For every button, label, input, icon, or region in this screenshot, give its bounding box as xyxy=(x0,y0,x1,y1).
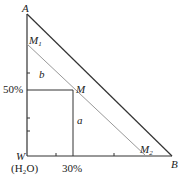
side-AB xyxy=(27,14,172,156)
label-a: a xyxy=(77,114,83,126)
label-M2: M2 xyxy=(139,143,153,157)
label-H2O: (H₂O) xyxy=(11,162,38,175)
label-50pct: 50% xyxy=(3,83,23,95)
line-M1-M2 xyxy=(27,44,146,156)
label-A: A xyxy=(21,2,29,14)
label-M1: M1 xyxy=(28,34,42,48)
label-30pct: 30% xyxy=(62,162,82,174)
ternary-diagram: A M1 b 50% M a W (H₂O) 30% M2 B xyxy=(0,0,184,180)
label-B: B xyxy=(171,158,178,170)
label-M: M xyxy=(75,83,86,95)
label-b: b xyxy=(39,68,45,80)
label-W: W xyxy=(16,150,26,162)
